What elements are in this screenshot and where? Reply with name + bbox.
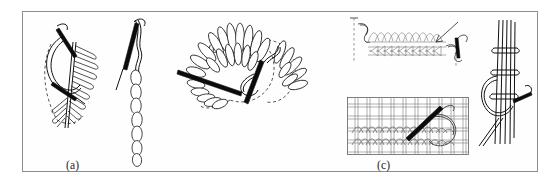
panel-c-long-and-short-fan: (c) [160,18,308,138]
panel-e-counted-thread-canvas: (e) [347,97,469,155]
panel-a-label: (a) [66,159,79,171]
panel-e-drawing [347,97,469,155]
panel-f-drawing [477,18,533,148]
panel-f-couched-bundle: (f) [477,18,533,148]
panel-d-drawing [346,16,470,68]
panel-b-drawing [110,16,158,168]
panel-b-chain-stitch: (b) [110,16,158,168]
panel-d-two-row-stitch: (d) [346,16,470,68]
panel-c-label: (c) [377,159,390,171]
figure-root: (a) (b) [0,0,559,186]
panel-c-drawing [160,18,308,138]
panel-a-drawing [33,20,111,140]
panel-a-fly-stitch-leaf: (a) [33,20,111,140]
